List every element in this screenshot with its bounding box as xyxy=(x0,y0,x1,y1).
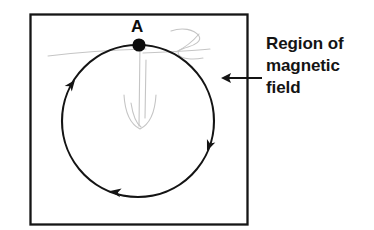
callout-line-2: magnetic xyxy=(266,55,370,77)
circular-trajectory xyxy=(62,45,214,197)
pencil-v-arrowhead xyxy=(124,95,156,129)
figure-root: A Region of magnetic field xyxy=(0,0,374,230)
arrowhead-upper-left xyxy=(65,77,79,91)
point-a-marker xyxy=(132,38,145,51)
faint-pencil-annotations xyxy=(48,29,210,129)
callout-arrow xyxy=(221,73,262,83)
point-a-label: A xyxy=(131,17,143,37)
callout-line-1: Region of xyxy=(266,33,370,55)
callout-line-3: field xyxy=(266,77,370,99)
pencil-vertical-line-from-a xyxy=(139,44,140,126)
pencil-horizontal-stroke-right xyxy=(143,49,210,53)
pencil-horizontal-stroke-left xyxy=(48,49,146,56)
pencil-vertical-line-secondary xyxy=(145,60,146,118)
region-callout-text: Region of magnetic field xyxy=(266,33,370,99)
direction-arrowheads xyxy=(65,77,216,197)
pencil-scribble-tail xyxy=(176,34,199,52)
